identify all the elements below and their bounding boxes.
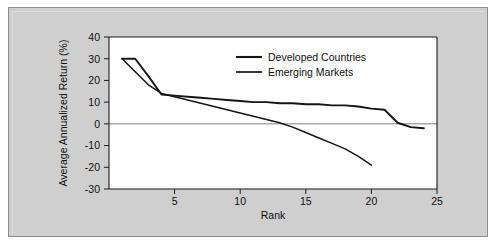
y-tick-label-neg10: -10 [85,139,100,151]
x-axis-title: Rank [261,209,286,221]
x-tick-label-10: 10 [234,195,246,207]
line-chart: 40 30 20 10 0 -10 -20 -30 5 10 15 20 25 … [9,8,489,238]
x-tick-label-15: 15 [300,195,312,207]
legend-label-emerging-markets: Emerging Markets [268,66,353,78]
y-tick-label-0: 0 [94,118,100,130]
y-axis-title: Average Annualized Return (%) [57,40,69,187]
y-tick-label-20: 20 [88,74,100,86]
y-axis-ticks [104,37,109,189]
legend-label-developed-countries: Developed Countries [268,51,366,63]
figure-panel: 40 30 20 10 0 -10 -20 -30 5 10 15 20 25 … [8,7,488,237]
y-tick-label-neg30: -30 [85,183,100,195]
y-tick-label-30: 30 [88,53,100,65]
x-tick-label-20: 20 [366,195,378,207]
y-tick-label-neg20: -20 [85,161,100,173]
y-tick-label-10: 10 [88,96,100,108]
x-tick-label-25: 25 [431,195,443,207]
y-tick-label-40: 40 [88,31,100,43]
x-tick-label-5: 5 [172,195,178,207]
x-axis-ticks [175,189,437,194]
